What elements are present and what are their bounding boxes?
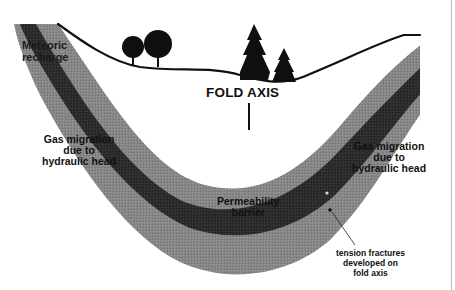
- tension-fractures-label: tension fractures developed on fold axis: [336, 248, 405, 279]
- ground-surface-line: [58, 24, 420, 82]
- fracture-point: [328, 208, 332, 212]
- permeability-barrier-line-2: barrier: [217, 207, 279, 218]
- gas-migration-left-line-3: hydraulic head: [42, 156, 116, 167]
- tension-fractures-line-3: fold axis: [336, 268, 405, 278]
- deciduous-tree-icon: [144, 30, 172, 67]
- frame-border-right: [451, 0, 452, 290]
- meteoric-recharge-line-1: Meteoric: [22, 40, 68, 52]
- fracture-point: [325, 191, 328, 194]
- fold-axis-label: FOLD AXIS: [206, 86, 279, 100]
- permeability-barrier-label: Permeability barrier: [217, 196, 279, 218]
- conifer-tree-icon: [272, 48, 296, 82]
- tension-fractures-line-1: tension fractures: [336, 248, 405, 258]
- meteoric-recharge-label: Meteoric recharge: [22, 40, 68, 63]
- fold-diagram: FOLD AXIS Meteoric recharge Gas migratio…: [0, 0, 455, 290]
- gas-migration-left-label: Gas migration due to hydraulic head: [42, 134, 116, 167]
- meteoric-recharge-line-2: recharge: [22, 52, 68, 64]
- gas-migration-right-label: Gas migration due to hydraulic head: [352, 141, 426, 174]
- tension-fractures-line-2: developed on: [336, 258, 405, 268]
- gas-migration-right-line-3: hydraulic head: [352, 163, 426, 174]
- deciduous-tree-icon: [122, 36, 144, 65]
- conifer-tree-icon: [240, 24, 270, 80]
